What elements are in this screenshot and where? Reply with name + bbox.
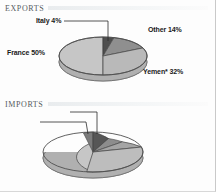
exports-label-yemen: Yemen* 32%: [143, 68, 183, 75]
imports-chart-panel: IMPORTS: [0, 96, 216, 192]
exports-label-france: France 50%: [7, 49, 45, 56]
exports-label-other: Other 14%: [148, 26, 182, 33]
exports-chart-panel: EXPORTS: [0, 0, 216, 96]
exports-pie-svg: [0, 0, 216, 96]
exports-label-italy: Italy 4%: [36, 17, 61, 24]
exports-header-rule: [48, 6, 208, 10]
imports-leader-lines: [40, 112, 97, 134]
exports-header: EXPORTS: [5, 4, 44, 13]
imports-italy-leader-line: [70, 112, 97, 134]
imports-header: IMPORTS: [5, 100, 43, 109]
figure-root: EXPORTS: [0, 0, 216, 192]
imports-header-rule: [48, 102, 208, 106]
exports-pie-slices: [59, 37, 147, 75]
imports-pie-svg: [0, 96, 216, 192]
